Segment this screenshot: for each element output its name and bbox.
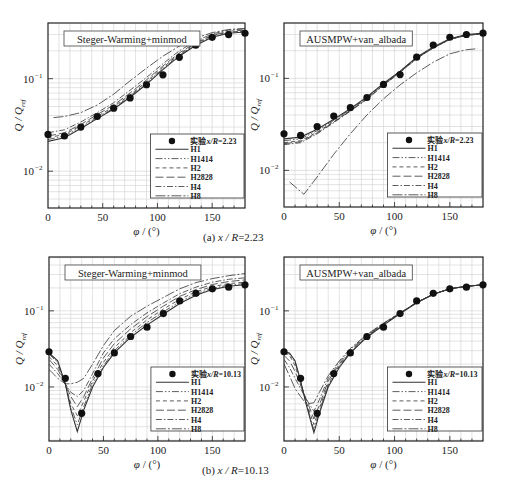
- legend-label-h2: H2: [190, 164, 200, 173]
- y-tick-exponent: −1: [35, 72, 43, 80]
- y-tick-exponent: −1: [271, 71, 279, 79]
- caption-a-prefix: (a): [203, 231, 218, 243]
- legend-label-h8: H8: [190, 192, 200, 201]
- legend-label-h2828: H2828: [427, 172, 449, 181]
- y-tick-exponent: −1: [271, 304, 279, 312]
- y-axis-label: Q / Qref: [248, 332, 263, 365]
- x-tick-label: 100: [386, 444, 403, 456]
- y-tick-label: 10: [259, 305, 271, 317]
- legend-label-h2828: H2828: [427, 406, 449, 415]
- legend-label-h1414: H1414: [427, 388, 449, 397]
- x-axis-ticks: 050100150: [46, 436, 234, 456]
- legend-label-h2: H2: [427, 397, 437, 406]
- x-axis-label: φ / (°): [370, 458, 397, 471]
- caption-b-var: x / R: [218, 464, 238, 476]
- scheme-title: Steger-Warming+minmod: [78, 268, 189, 279]
- legend: 实验x/R=2.23H1H1414H2H2828H4H8: [150, 134, 244, 201]
- x-axis-ticks: 050100150: [45, 203, 234, 223]
- scheme-title-box: Steger-Warming+minmod: [64, 31, 200, 46]
- x-axis-label: φ / (°): [133, 225, 160, 238]
- x-axis-ticks: 050100150: [281, 436, 472, 456]
- y-tick-label: 10: [259, 381, 271, 393]
- x-tick-label: 0: [46, 444, 52, 456]
- x-tick-label: 150: [204, 444, 221, 456]
- scheme-title: AUSMPW+van_albada: [306, 268, 406, 279]
- x-tick-label: 150: [442, 444, 459, 456]
- x-tick-label: 0: [45, 211, 51, 223]
- legend-label-h1414: H1414: [190, 155, 212, 164]
- x-tick-label: 0: [281, 444, 287, 456]
- legend-label-h4: H4: [191, 416, 201, 425]
- chart-b-left: 050100150φ / (°)10−110−2Q / QrefSteger-W…: [13, 257, 249, 471]
- x-tick-label: 100: [149, 211, 166, 223]
- caption-a-var: x / R: [218, 231, 238, 243]
- legend-label-h1: H1: [191, 378, 201, 387]
- x-tick-label: 50: [334, 210, 346, 222]
- x-tick-label: 50: [98, 444, 110, 456]
- scheme-title: Steger-Warming+minmod: [77, 34, 188, 45]
- legend-label-h1: H1: [427, 144, 437, 153]
- legend-label-h2828: H2828: [190, 173, 212, 182]
- caption-b: (b) x / R=10.13: [202, 464, 269, 476]
- scheme-title-box: Steger-Warming+minmod: [65, 265, 201, 280]
- caption-a-value: =2.23: [238, 231, 263, 243]
- figure: 050100150φ / (°)10−110−2Q / QrefSteger-W…: [0, 0, 505, 495]
- y-tick-label: 10: [24, 305, 36, 317]
- chart-b-right: 050100150φ / (°)10−110−2Q / QrefAUSMPW+v…: [248, 257, 487, 471]
- y-tick-exponent: −2: [36, 380, 44, 388]
- legend-label-h2: H2: [427, 163, 437, 172]
- y-tick-exponent: −1: [36, 304, 44, 312]
- scheme-title-box: AUSMPW+van_albada: [300, 31, 412, 46]
- y-axis-label: Q / Qref: [248, 98, 263, 131]
- scheme-title-box: AUSMPW+van_albada: [300, 265, 412, 280]
- y-axis-label: Q / Qref: [13, 332, 28, 365]
- legend-label-h2: H2: [191, 397, 201, 406]
- x-tick-label: 100: [150, 444, 167, 456]
- x-axis-ticks: 050100150: [281, 202, 472, 222]
- chart-a-right: 050100150φ / (°)10−110−2Q / QrefAUSMPW+v…: [248, 23, 487, 237]
- legend-label-h4: H4: [427, 182, 437, 191]
- y-tick-exponent: −2: [35, 164, 43, 172]
- x-tick-label: 100: [386, 210, 403, 222]
- legend: 实验x/R=2.23H1H1414H2H2828H4H8: [387, 133, 482, 200]
- x-tick-label: 150: [204, 211, 221, 223]
- x-axis-label: φ / (°): [370, 224, 397, 237]
- x-tick-label: 50: [97, 211, 109, 223]
- y-tick-exponent: −2: [271, 380, 279, 388]
- y-axis-label: Q / Qref: [12, 98, 27, 131]
- y-tick-label: 10: [24, 381, 36, 393]
- legend-label-h1414: H1414: [191, 388, 213, 397]
- legend-label-h4: H4: [427, 416, 437, 425]
- legend: 实验x/R=10.13H1H1414H2H2828H4H8: [387, 367, 482, 434]
- legend: 实验x/R=10.13H1H1414H2H2828H4H8: [151, 367, 244, 434]
- caption-a: (a) x / R=2.23: [203, 231, 264, 243]
- x-tick-label: 50: [334, 444, 346, 456]
- x-tick-label: 0: [281, 210, 287, 222]
- legend-label-h8: H8: [191, 425, 201, 434]
- legend-label-h1: H1: [190, 145, 200, 154]
- y-tick-label: 10: [23, 165, 35, 177]
- x-axis-label: φ / (°): [134, 458, 161, 471]
- y-tick-label: 10: [259, 164, 271, 176]
- scheme-title: AUSMPW+van_albada: [306, 34, 406, 45]
- chart-a-left: 050100150φ / (°)10−110−2Q / QrefSteger-W…: [12, 23, 249, 238]
- legend-label-h1: H1: [427, 378, 437, 387]
- y-tick-label: 10: [23, 73, 35, 85]
- legend-label-h2828: H2828: [191, 406, 213, 415]
- caption-b-value: =10.13: [238, 464, 269, 476]
- legend-label-h8: H8: [427, 191, 437, 200]
- legend-label-h8: H8: [427, 425, 437, 434]
- caption-b-prefix: (b): [202, 464, 218, 476]
- x-tick-label: 150: [442, 210, 459, 222]
- y-tick-label: 10: [259, 72, 271, 84]
- legend-label-h1414: H1414: [427, 154, 449, 163]
- legend-label-h4: H4: [190, 183, 200, 192]
- y-tick-exponent: −2: [271, 163, 279, 171]
